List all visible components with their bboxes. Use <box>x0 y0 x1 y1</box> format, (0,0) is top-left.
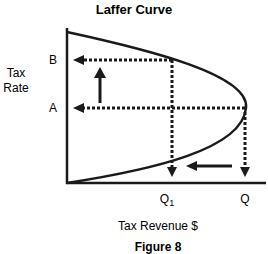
q1-arrowhead <box>167 167 177 177</box>
tick-q1-sub: 1 <box>169 198 174 208</box>
diagram-title: Laffer Curve <box>96 2 173 17</box>
tick-q: Q <box>240 192 249 206</box>
tick-q1: Q1 <box>160 192 174 208</box>
revenue-decrease-arrowhead <box>186 161 197 171</box>
rate-increase-arrowhead <box>94 67 106 78</box>
x-axis-label: Tax Revenue $ <box>118 219 198 233</box>
rate-a-arrowhead <box>73 103 84 113</box>
tick-q1-main: Q <box>160 192 169 206</box>
y-axis-label-line2: Rate <box>3 81 29 95</box>
y-axis-label-line1: Tax <box>7 66 26 80</box>
figure-caption: Figure 8 <box>135 240 182 254</box>
q-arrowhead <box>240 167 250 177</box>
rate-b-arrowhead <box>73 55 84 65</box>
tick-b: B <box>49 53 57 67</box>
tick-a: A <box>49 101 57 115</box>
laffer-diagram: Laffer Curve Tax Rate B A Q1 Q Tax Reven… <box>0 0 268 254</box>
